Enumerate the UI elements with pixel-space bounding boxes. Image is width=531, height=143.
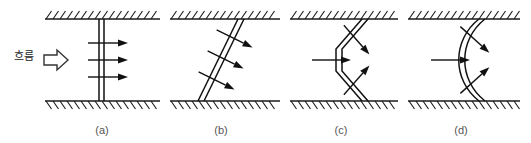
panel-a-velocity-arrows bbox=[88, 40, 128, 81]
panel-a-label: (a) bbox=[95, 124, 108, 136]
figure-canvas: (a) bbox=[0, 0, 531, 143]
panel-c: (c) bbox=[290, 11, 398, 136]
panel-b-velocity-arrows bbox=[197, 27, 254, 93]
panel-d-label: (d) bbox=[454, 124, 467, 136]
diagram-svg: (a) bbox=[0, 0, 531, 143]
panel-d-bottom-wall bbox=[408, 101, 520, 109]
panel-c-bottom-wall bbox=[290, 101, 398, 109]
panel-a: (a) bbox=[45, 11, 160, 136]
panel-d: (d) bbox=[408, 11, 520, 136]
panel-b-plane bbox=[198, 19, 244, 101]
flow-direction-block-arrow-icon bbox=[44, 50, 68, 70]
panel-b-label: (b) bbox=[214, 124, 227, 136]
panel-d-velocity-arrows bbox=[431, 24, 492, 96]
panel-a-top-wall bbox=[45, 11, 160, 19]
flow-label: 흐름 bbox=[14, 50, 34, 64]
panel-b-top-wall bbox=[170, 11, 280, 19]
panel-d-top-wall bbox=[408, 11, 520, 19]
panel-a-bottom-wall bbox=[45, 101, 160, 109]
panel-b-bottom-wall bbox=[170, 101, 280, 109]
panel-b: (b) bbox=[170, 11, 280, 136]
panel-c-velocity-arrows bbox=[312, 23, 372, 97]
panel-c-label: (c) bbox=[335, 124, 348, 136]
panel-c-top-wall bbox=[290, 11, 398, 19]
